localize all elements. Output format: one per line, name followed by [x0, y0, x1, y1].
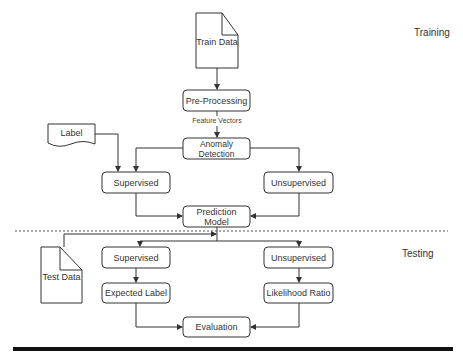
evaluation-label: Evaluation: [183, 317, 250, 337]
training-section-label: Training: [414, 27, 450, 38]
bottom-rule: [13, 347, 453, 351]
anomaly-detection-label: Anomaly Detection: [190, 138, 243, 159]
feature-vectors-label: Feature Vectors: [180, 116, 254, 126]
prediction-model-label: Prediction Model: [183, 206, 250, 227]
diagram-canvas: [0, 0, 463, 360]
test-data-label: Test Data: [41, 270, 82, 284]
expected-label-label: Expected Label: [102, 283, 170, 303]
likelihood-ratio-label: Likelihood Ratio: [264, 283, 333, 303]
label-node-label: Label: [48, 124, 95, 142]
pre-processing-label: Pre-Processing: [183, 90, 250, 111]
train-data-label: Train Data: [196, 35, 238, 49]
supervised-train-label: Supervised: [102, 172, 170, 193]
unsupervised-test-label: Unsupervised: [264, 247, 333, 268]
supervised-test-label: Supervised: [102, 247, 170, 268]
unsupervised-train-label: Unsupervised: [264, 172, 333, 193]
testing-section-label: Testing: [402, 248, 434, 259]
